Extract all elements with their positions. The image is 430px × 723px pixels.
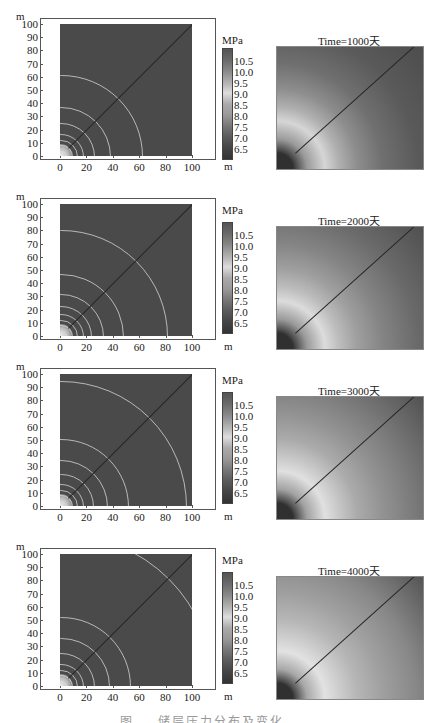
x-tick-label: 20 <box>73 692 99 703</box>
colorbar <box>222 222 233 334</box>
y-tick-label: 30 <box>16 461 38 472</box>
colorbar-unit: MPa <box>222 204 243 216</box>
figure-row: m1009080706050403020100020406080100mMPa1… <box>0 350 430 530</box>
y-tick-label: 90 <box>16 562 38 573</box>
y-tick-label: 100 <box>16 199 38 210</box>
y-tick-mark <box>40 336 43 337</box>
y-tick-label: 50 <box>16 615 38 626</box>
y-tick-label: 0 <box>16 501 38 512</box>
y-tick-mark <box>40 414 43 415</box>
y-tick-mark <box>40 257 43 258</box>
y-tick-label: 50 <box>16 265 38 276</box>
colorbar <box>222 48 233 160</box>
x-tick-label: 80 <box>153 162 179 173</box>
diagonal-line <box>295 226 415 334</box>
y-tick-mark <box>40 270 43 271</box>
y-tick-label: 70 <box>16 59 38 70</box>
contour-plot-area <box>60 554 192 686</box>
y-tick-label: 20 <box>16 475 38 486</box>
y-tick-mark <box>40 607 43 608</box>
y-tick-mark <box>40 64 43 65</box>
figure-row: m1009080706050403020100020406080100mMPa1… <box>0 180 430 360</box>
y-tick-label: 90 <box>16 212 38 223</box>
colorbar-tick-label: 6.5 <box>234 318 248 329</box>
y-tick-label: 80 <box>16 45 38 56</box>
y-tick-mark <box>40 323 43 324</box>
colorbar-unit: MPa <box>222 374 243 386</box>
y-tick-label: 40 <box>16 98 38 109</box>
y-tick-mark <box>40 230 43 231</box>
y-tick-label: 20 <box>16 125 38 136</box>
x-axis-unit: m <box>224 510 233 522</box>
y-tick-mark <box>40 204 43 205</box>
y-tick-label: 20 <box>16 305 38 316</box>
y-tick-mark <box>40 633 43 634</box>
x-axis-unit: m <box>224 690 233 702</box>
y-tick-label: 40 <box>16 448 38 459</box>
y-tick-label: 50 <box>16 85 38 96</box>
y-tick-mark <box>40 244 43 245</box>
y-tick-mark <box>40 453 43 454</box>
y-tick-mark <box>40 480 43 481</box>
x-tick-label: 0 <box>47 692 73 703</box>
y-tick-label: 70 <box>16 239 38 250</box>
y-tick-label: 60 <box>16 602 38 613</box>
y-tick-mark <box>40 594 43 595</box>
x-tick-label: 80 <box>153 512 179 523</box>
figure-caption: 图 … 储层压力分布及变化 <box>120 712 284 723</box>
x-tick-mark <box>192 685 193 688</box>
x-tick-mark <box>192 155 193 158</box>
colorbar-unit: MPa <box>222 34 243 46</box>
y-tick-mark <box>40 646 43 647</box>
y-tick-mark <box>40 440 43 441</box>
y-tick-label: 100 <box>16 19 38 30</box>
y-tick-mark <box>40 77 43 78</box>
x-tick-label: 60 <box>126 162 152 173</box>
colorbar <box>222 392 233 504</box>
y-tick-label: 30 <box>16 111 38 122</box>
y-tick-label: 20 <box>16 655 38 666</box>
x-axis-unit: m <box>224 160 233 172</box>
pressure-map <box>276 576 424 700</box>
y-tick-mark <box>40 660 43 661</box>
y-tick-label: 50 <box>16 435 38 446</box>
y-tick-mark <box>40 400 43 401</box>
y-tick-mark <box>40 387 43 388</box>
y-tick-label: 10 <box>16 668 38 679</box>
y-tick-mark <box>40 296 43 297</box>
x-tick-label: 100 <box>179 512 205 523</box>
y-tick-label: 60 <box>16 422 38 433</box>
x-tick-label: 100 <box>179 692 205 703</box>
contour-plot-area <box>60 374 192 506</box>
y-tick-label: 70 <box>16 589 38 600</box>
y-tick-mark <box>40 90 43 91</box>
diagonal-line <box>295 46 415 154</box>
y-tick-label: 40 <box>16 628 38 639</box>
y-tick-label: 30 <box>16 641 38 652</box>
figure-row: m1009080706050403020100020406080100mMPa1… <box>0 0 430 180</box>
x-tick-mark <box>192 505 193 508</box>
y-tick-mark <box>40 493 43 494</box>
y-tick-mark <box>40 567 43 568</box>
pressure-map <box>276 396 424 520</box>
contour-plot-area <box>60 24 192 156</box>
y-tick-label: 10 <box>16 488 38 499</box>
y-tick-mark <box>40 156 43 157</box>
pressure-map <box>276 46 424 170</box>
y-tick-mark <box>40 466 43 467</box>
y-tick-mark <box>40 427 43 428</box>
y-tick-mark <box>40 217 43 218</box>
x-tick-label: 40 <box>100 512 126 523</box>
colorbar-unit: MPa <box>222 554 243 566</box>
y-tick-label: 0 <box>16 151 38 162</box>
colorbar-tick-label: 6.5 <box>234 668 248 679</box>
y-tick-mark <box>40 283 43 284</box>
y-tick-label: 10 <box>16 318 38 329</box>
x-tick-label: 40 <box>100 162 126 173</box>
x-tick-label: 100 <box>179 162 205 173</box>
pressure-map <box>276 226 424 350</box>
y-tick-label: 70 <box>16 409 38 420</box>
colorbar-tick-label: 6.5 <box>234 488 248 499</box>
x-tick-label: 60 <box>126 512 152 523</box>
y-tick-mark <box>40 620 43 621</box>
